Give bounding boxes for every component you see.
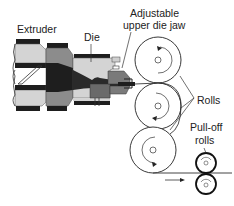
label-die: Die bbox=[84, 31, 100, 43]
extruder-body bbox=[13, 39, 47, 111]
label-pulloff-line2: rolls bbox=[195, 134, 214, 146]
calender-rolls bbox=[130, 37, 181, 173]
direction-arrow-icon bbox=[180, 178, 185, 182]
label-jaw-line2: upper die jaw bbox=[123, 19, 186, 31]
top-roll bbox=[135, 37, 181, 83]
extrusion-diagram: Extruder Die Adjustable upper die jaw Ro… bbox=[0, 0, 234, 206]
label-rolls: Rolls bbox=[197, 94, 220, 106]
label-extruder: Extruder bbox=[17, 23, 57, 35]
label-pulloff-line1: Pull-off bbox=[190, 121, 223, 133]
middle-roll bbox=[135, 83, 181, 129]
label-jaw-line1: Adjustable bbox=[130, 7, 179, 19]
pull-off-roll-bottom bbox=[196, 174, 216, 194]
pull-off-roll-top bbox=[196, 153, 216, 173]
